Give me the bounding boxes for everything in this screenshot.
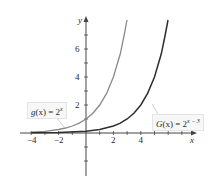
y-axis: 2 4 6 y	[75, 15, 89, 176]
x-tick-label: 4	[139, 135, 144, 145]
chart: −4 −2 2 4 x 2 4 6 y	[0, 0, 214, 187]
G-fn-exponent: x − 3	[187, 118, 200, 124]
x-tick-label: 2	[111, 135, 116, 145]
y-tick-label: 6	[75, 44, 80, 54]
x-tick-label: −2	[54, 135, 64, 145]
G-function-label: G(x) = 2x − 3	[152, 114, 204, 131]
g-function-label: g(x) = 2x	[27, 102, 67, 119]
G-fn-body: (x) = 2	[163, 119, 188, 129]
y-tick-label: 2	[75, 100, 80, 110]
g-fn-body: (x) = 2	[36, 107, 61, 117]
y-axis-label: y	[77, 15, 82, 25]
y-tick-label: 4	[75, 72, 80, 82]
G-leader-line	[152, 104, 158, 114]
g-fn-exponent: x	[60, 106, 63, 112]
plot-area: −4 −2 2 4 x 2 4 6 y	[0, 0, 214, 187]
x-tick-label: −4	[27, 135, 37, 145]
x-axis-label: x	[189, 135, 194, 145]
